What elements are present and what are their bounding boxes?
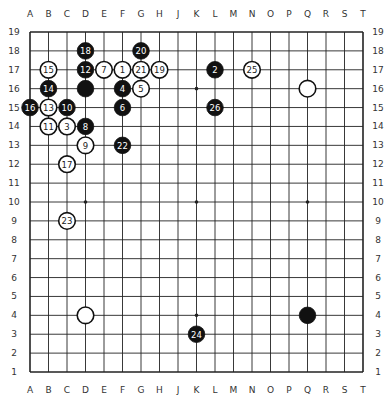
row-label: 17 (372, 65, 383, 75)
black-stone: 18 (77, 43, 94, 60)
row-label: 14 (8, 121, 20, 131)
white-stone: 17 (59, 156, 76, 173)
row-label: 9 (375, 216, 381, 226)
black-stone: 14 (40, 80, 57, 97)
column-labels-top: ABCDEFGHJKLMNOPQRST (27, 9, 366, 19)
row-label: 7 (375, 254, 381, 264)
white-stone: 13 (40, 99, 57, 116)
move-number: 1 (120, 65, 125, 75)
column-labels-bottom: ABCDEFGHJKLMNOPQRST (27, 385, 366, 395)
white-stone: 3 (59, 118, 76, 135)
white-stone: 1 (114, 61, 131, 78)
column-label: Q (304, 9, 311, 19)
black-stone: 8 (77, 118, 94, 135)
white-stone: 7 (96, 61, 113, 78)
column-label: R (323, 385, 329, 395)
star-point (195, 87, 199, 91)
column-label: N (249, 385, 256, 395)
row-label: 1 (375, 367, 381, 377)
black-stone: 6 (114, 99, 131, 116)
white-stone: 15 (40, 61, 57, 78)
row-label: 16 (372, 84, 384, 94)
row-label: 13 (372, 140, 383, 150)
black-stone: 12 (77, 61, 94, 78)
white-stone: 11 (40, 118, 57, 135)
row-label: 6 (375, 273, 381, 283)
black-stone: 24 (188, 326, 205, 343)
stone-shape (299, 80, 316, 97)
move-number: 26 (210, 103, 221, 113)
row-label: 11 (8, 178, 19, 188)
row-labels-left: 19181716151413121110987654321 (8, 27, 20, 377)
row-label: 3 (375, 329, 381, 339)
move-number: 5 (138, 84, 143, 94)
black-stone (77, 80, 94, 97)
go-board[interactable]: ABCDEFGHJKLMNOPQRST ABCDEFGHJKLMNOPQRST … (0, 0, 388, 408)
move-number: 8 (83, 122, 88, 132)
move-number: 17 (62, 160, 73, 170)
column-label: S (342, 9, 348, 19)
column-label: T (359, 385, 366, 395)
black-stone: 2 (207, 61, 224, 78)
row-label: 1 (11, 367, 17, 377)
stones-layer: 1234567891011121314151617181920212223242… (22, 43, 316, 343)
column-label: K (194, 9, 201, 19)
row-label: 19 (8, 27, 20, 37)
row-label: 18 (372, 46, 384, 56)
row-label: 15 (8, 103, 19, 113)
white-stone: 25 (244, 61, 261, 78)
star-point (195, 314, 199, 318)
row-label: 10 (8, 197, 20, 207)
move-number: 10 (62, 103, 73, 113)
row-label: 14 (372, 121, 384, 131)
column-label: P (286, 9, 292, 19)
white-stone (299, 80, 316, 97)
black-stone: 22 (114, 137, 131, 154)
row-label: 15 (372, 103, 383, 113)
column-label: O (267, 9, 274, 19)
column-label: O (267, 385, 274, 395)
move-number: 23 (62, 216, 73, 226)
row-label: 4 (11, 310, 17, 320)
row-label: 18 (8, 46, 20, 56)
white-stone (77, 307, 94, 324)
row-label: 11 (372, 178, 383, 188)
column-label: H (156, 9, 163, 19)
column-label: A (27, 9, 34, 19)
row-label: 4 (375, 310, 381, 320)
black-stone: 10 (59, 99, 76, 116)
row-label: 5 (11, 291, 17, 301)
column-label: P (286, 385, 292, 395)
row-label: 8 (11, 235, 17, 245)
column-label: D (82, 385, 89, 395)
move-number: 12 (80, 65, 91, 75)
move-number: 3 (64, 122, 69, 132)
column-label: E (101, 9, 107, 19)
black-stone: 4 (114, 80, 131, 97)
move-number: 20 (136, 46, 147, 56)
move-number: 14 (43, 84, 54, 94)
column-label: T (359, 9, 366, 19)
move-number: 4 (120, 84, 125, 94)
row-label: 9 (11, 216, 17, 226)
row-label: 10 (372, 197, 384, 207)
star-point (84, 200, 88, 204)
move-number: 11 (43, 122, 54, 132)
column-label: M (230, 385, 238, 395)
white-stone: 19 (151, 61, 168, 78)
row-label: 8 (375, 235, 381, 245)
black-stone: 20 (133, 43, 150, 60)
row-labels-right: 19181716151413121110987654321 (372, 27, 384, 377)
move-number: 25 (247, 65, 258, 75)
move-number: 19 (154, 65, 165, 75)
move-number: 13 (43, 103, 54, 113)
column-label: R (323, 9, 329, 19)
row-label: 7 (11, 254, 17, 264)
column-label: H (156, 385, 163, 395)
move-number: 21 (136, 65, 147, 75)
white-stone: 9 (77, 137, 94, 154)
row-label: 2 (11, 348, 17, 358)
row-label: 16 (8, 84, 20, 94)
row-label: 2 (375, 348, 381, 358)
column-label: F (120, 9, 125, 19)
